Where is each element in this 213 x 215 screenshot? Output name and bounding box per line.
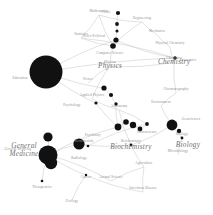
edge	[111, 167, 144, 181]
node-radiology[interactable]	[73, 138, 84, 149]
edge	[88, 66, 110, 83]
node-computer-science[interactable]	[110, 43, 116, 49]
edge	[81, 15, 99, 38]
node-psychiatry[interactable]	[115, 124, 122, 131]
node-group	[30, 11, 184, 182]
network-canvas	[0, 0, 213, 215]
node-geosciences[interactable]	[167, 120, 178, 131]
node-node-gm-b[interactable]	[45, 157, 57, 169]
edge	[48, 155, 111, 181]
science-map-figure: CitiesSocio-PoliticalEconomicsEducationP…	[0, 0, 213, 215]
node-cancer[interactable]	[85, 174, 87, 176]
edge	[178, 138, 182, 155]
edge	[116, 104, 118, 127]
node-therapeutics[interactable]	[41, 180, 44, 183]
edge	[157, 35, 170, 47]
node-psychology[interactable]	[94, 101, 97, 104]
edge	[174, 62, 176, 93]
edge	[92, 66, 110, 99]
node-education[interactable]	[30, 56, 63, 89]
node-node-ed-a[interactable]	[101, 85, 106, 90]
node-biochemistry[interactable]	[130, 144, 133, 147]
node-node-ps-c[interactable]	[138, 127, 143, 132]
edge	[131, 125, 172, 145]
edge-group	[42, 13, 182, 200]
edge	[110, 46, 113, 66]
node-socio-political[interactable]	[113, 37, 118, 42]
node-biology[interactable]	[181, 137, 184, 140]
node-cities[interactable]	[116, 11, 120, 15]
edge	[72, 175, 86, 200]
edge	[81, 38, 113, 46]
node-node-sp-a[interactable]	[115, 22, 119, 26]
edge	[110, 62, 174, 67]
edge	[86, 175, 143, 192]
node-node-bio-a[interactable]	[177, 129, 181, 133]
node-economics[interactable]	[173, 56, 177, 60]
edge	[161, 93, 176, 106]
edge	[96, 103, 118, 127]
node-node-ed-b[interactable]	[109, 93, 113, 97]
edge	[81, 38, 175, 58]
edge	[143, 167, 144, 192]
edge	[99, 15, 142, 22]
node-node-ps-b[interactable]	[130, 122, 136, 128]
node-node-gm-a[interactable]	[43, 132, 52, 141]
node-node-ed-c[interactable]	[114, 102, 117, 105]
edge	[131, 145, 144, 167]
node-node-ps-a[interactable]	[123, 119, 129, 125]
node-neuroscience[interactable]	[145, 122, 149, 126]
node-node-sp-b[interactable]	[116, 30, 119, 33]
node-biomaterials[interactable]	[87, 145, 90, 148]
edge	[170, 47, 174, 62]
edge	[142, 22, 157, 35]
